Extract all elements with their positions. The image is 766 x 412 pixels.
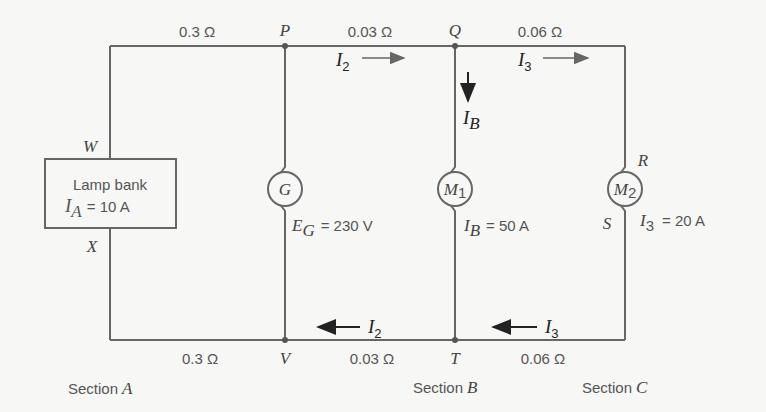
lamp-bank-title: Lamp bank [73,176,148,193]
node-q-label: Q [449,21,461,40]
motor2-label: M2 [613,180,637,201]
lamp-bank-box [45,159,176,228]
node-v-dot [282,337,288,343]
branch-ib-label: IB [462,107,480,133]
node-s-label: S [603,214,612,233]
generator-emf: EG= 230 V [291,216,373,240]
bottom-i2-label: I2 [367,316,382,341]
bottom-resistance-a: 0.3 Ω [182,350,218,367]
top-resistance-a: 0.3 Ω [179,23,215,40]
generator-label: G [279,180,291,199]
node-v-label: V [280,349,293,368]
node-w-label: W [83,137,99,156]
motor1-label: M1 [443,180,467,201]
section-a-label: SectionA [68,379,133,398]
node-p-dot [282,43,288,49]
node-t-label: T [450,349,461,368]
top-i2-label: I2 [335,49,350,74]
section-c-label: SectionC [582,378,648,397]
top-i3-label: I3 [517,49,532,74]
lamp-bank-current: IA= 10 A [64,195,130,221]
motor2-current: I3= 20 A [639,211,705,234]
section-b-label: SectionB [413,378,478,397]
node-t-dot [452,337,458,343]
node-q-dot [452,43,458,49]
bottom-resistance-c: 0.06 Ω [521,350,566,367]
node-x-label: X [86,237,98,256]
circuit-diagram: Lamp bank IA= 10 A G EG= 230 V M1 IB= 50… [0,0,766,412]
bottom-i3-label: I3 [544,316,559,341]
bottom-resistance-b: 0.03 Ω [350,350,395,367]
node-r-label: R [637,151,649,170]
motor1-current: IB= 50 A [463,216,529,240]
top-resistance-b: 0.03 Ω [348,23,393,40]
node-p-label: P [279,21,290,40]
top-resistance-c: 0.06 Ω [518,23,563,40]
